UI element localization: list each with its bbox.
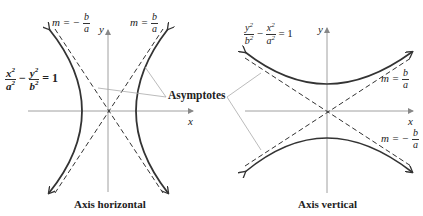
right-caption: Axis vertical [298, 199, 357, 210]
left-graph [28, 29, 193, 193]
left-x-axis-label: x [188, 116, 193, 127]
asymptote-pointers [98, 67, 261, 150]
asymptotes-label: Asymptotes [168, 90, 226, 102]
right-slope-pos-label: m = ba [381, 68, 409, 90]
left-equation: x2a2 − y2b2 = 1 [5, 67, 58, 92]
left-slope-pos-label: m = ba [130, 12, 158, 34]
right-graph [245, 28, 413, 193]
right-equation: y2b2 − x2a2 = 1 [244, 22, 293, 47]
right-y-axis-label: y [318, 24, 323, 35]
left-caption: Axis horizontal [74, 199, 146, 210]
left-y-axis-label: y [99, 24, 104, 35]
right-slope-neg-label: m = − ba [381, 128, 419, 150]
right-x-axis-label: x [408, 116, 413, 127]
left-slope-neg-label: m = − ba [52, 12, 90, 34]
